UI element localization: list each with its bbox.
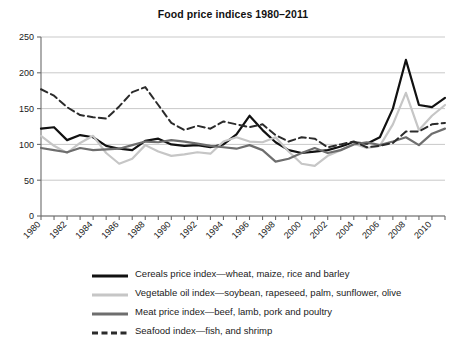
x-tick-label: 1984 [73,219,94,240]
y-axis: 050100150200250 [19,32,41,221]
y-tick-label: 150 [19,104,34,114]
x-axis: 1980198219841986198819901992199419961998… [21,216,445,241]
legend-item[interactable]: Cereals price index—wheat, maize, rice a… [92,264,462,283]
y-tick-label: 100 [19,140,34,150]
x-tick-label: 1990 [152,219,173,240]
legend-item[interactable]: Vegetable oil index—soybean, rapeseed, p… [92,283,462,302]
y-tick-label: 250 [19,32,34,42]
x-tick-label: 2002 [308,219,329,240]
x-tick-label: 2006 [360,219,381,240]
legend-swatch [92,306,128,318]
legend-swatch [92,287,128,299]
x-tick-label: 2000 [282,219,303,240]
x-tick-label: 1994 [204,219,225,240]
legend-item[interactable]: Seafood index—fish, and shrimp [92,321,462,340]
x-tick-label: 2010 [412,219,433,240]
legend-swatch [92,268,128,280]
y-tick-label: 0 [29,211,34,221]
legend-label: Meat price index—beef, lamb, pork and po… [135,306,332,317]
y-tick-label: 200 [19,68,34,78]
x-tick-label: 1988 [125,219,146,240]
x-tick-label: 2008 [386,219,407,240]
legend-swatch [92,325,128,337]
legend-label: Seafood index—fish, and shrimp [135,325,272,336]
data-series-group [41,60,445,166]
legend-label: Cereals price index—wheat, maize, rice a… [135,268,349,279]
x-tick-label: 1996 [230,219,251,240]
x-tick-label: 1986 [99,219,120,240]
legend-label: Vegetable oil index—soybean, rapeseed, p… [135,287,401,298]
x-tick-label: 1982 [47,219,68,240]
x-tick-label: 1998 [256,219,277,240]
x-tick-label: 2004 [334,219,355,240]
y-tick-label: 50 [24,176,34,186]
chart-legend: Cereals price index—wheat, maize, rice a… [92,264,462,340]
x-tick-label: 1980 [21,219,42,240]
legend-item[interactable]: Meat price index—beef, lamb, pork and po… [92,302,462,321]
x-tick-label: 1992 [178,219,199,240]
chart-figure: Food price indices 1980–2011 05010015020… [0,0,466,345]
